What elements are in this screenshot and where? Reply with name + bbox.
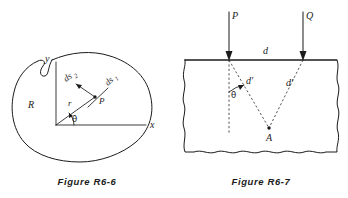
x-axis-label: x xyxy=(149,119,155,130)
ds2-label-group: ds 2 xyxy=(62,68,80,85)
point-a-marker xyxy=(267,126,270,129)
radius-label: r xyxy=(68,98,72,108)
y-axis-label: y xyxy=(44,53,50,64)
ds2-label-subscript: 2 xyxy=(72,71,79,79)
figure-r6-6-drawing: y x R r P θ ds 1 ds 2 xyxy=(0,0,174,176)
ds1-element-line xyxy=(88,88,108,107)
figure-r6-7-drawing: P Q d d′ d′ θ A xyxy=(174,0,348,176)
figure-r6-6: y x R r P θ ds 1 ds 2 Figure R6-6 xyxy=(0,0,174,198)
ds1-label-group: ds 1 xyxy=(103,71,121,88)
slant-right-dashed-line xyxy=(269,60,303,128)
surface-distance-label: d xyxy=(263,45,269,56)
theta-arc-arrowhead xyxy=(238,85,244,90)
slant-right-label: d′ xyxy=(286,77,294,88)
ds2-arrowhead xyxy=(76,84,82,89)
theta-angle-label: θ xyxy=(72,114,77,124)
figure-sheet: y x R r P θ ds 1 ds 2 Figure R6-6 xyxy=(0,0,348,198)
load-p-label: P xyxy=(231,10,238,21)
slant-left-label: d′ xyxy=(246,75,254,86)
half-plane-body-path xyxy=(183,60,339,153)
point-a-label: A xyxy=(265,132,273,143)
point-p-label: P xyxy=(98,96,105,106)
ds1-label-subscript: 1 xyxy=(113,75,120,82)
region-label: R xyxy=(27,99,34,110)
figure-r6-6-caption: Figure R6-6 xyxy=(0,176,174,187)
figure-r6-7-caption: Figure R6-7 xyxy=(174,176,348,187)
figure-r6-7: P Q d d′ d′ θ A Figure R6-7 xyxy=(174,0,348,198)
load-q-label: Q xyxy=(306,10,314,21)
point-p-marker xyxy=(93,95,96,98)
theta-angle-label: θ xyxy=(231,90,236,100)
